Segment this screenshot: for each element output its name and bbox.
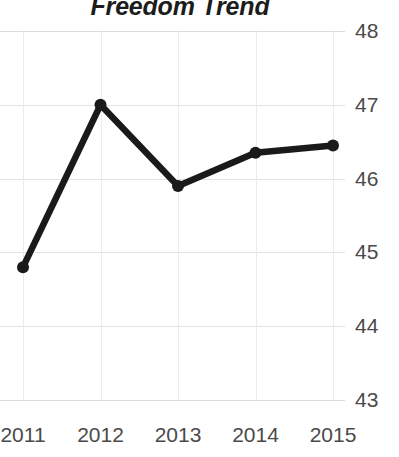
data-series-line: [0, 0, 399, 457]
y-axis-tick-label: 45: [355, 241, 399, 262]
x-axis-tick-label: 2012: [56, 424, 146, 445]
y-axis-tick-label: 47: [355, 94, 399, 115]
x-axis-tick-label: 2014: [211, 424, 301, 445]
data-point-marker: [250, 147, 262, 159]
data-point-marker: [17, 261, 29, 273]
data-point-marker: [95, 99, 107, 111]
y-axis-tick-label: 46: [355, 168, 399, 189]
data-point-marker: [327, 139, 339, 151]
x-axis-tick-label: 2015: [288, 424, 378, 445]
y-axis-tick-label: 48: [355, 20, 399, 41]
y-axis-tick-label: 44: [355, 315, 399, 336]
x-axis-tick-label: 2013: [133, 424, 223, 445]
plot-area: [23, 31, 345, 400]
data-point-marker: [172, 180, 184, 192]
line-chart: Freedom Trend 434445464748 2011201220132…: [0, 0, 399, 457]
y-axis-tick-label: 43: [355, 389, 399, 410]
